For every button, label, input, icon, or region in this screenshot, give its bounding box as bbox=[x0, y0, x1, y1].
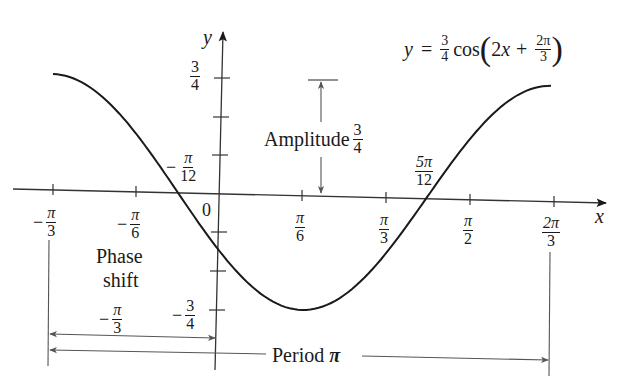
equation: y = 34 cos ( 2x + 2π3 ) bbox=[404, 32, 563, 66]
x-tick-label: π3 bbox=[379, 212, 389, 247]
y-tick-label-top: 34 bbox=[190, 59, 200, 94]
period-label: Period π bbox=[272, 345, 340, 365]
zero-crossing-right-label: 5π12 bbox=[415, 154, 433, 189]
phase-shift-label-line2: shift bbox=[103, 270, 139, 290]
y-axis bbox=[215, 32, 223, 370]
y-axis-label: y bbox=[203, 27, 212, 47]
x-tick-label: π2 bbox=[463, 213, 473, 248]
phase-shift-label-line1: Phase bbox=[96, 246, 143, 266]
x-axis-label: x bbox=[595, 206, 604, 226]
y-tick-label-bottom: −34 bbox=[172, 298, 195, 333]
x-tick-label: −π6 bbox=[117, 207, 140, 242]
x-tick-label: π6 bbox=[295, 210, 305, 245]
origin-label: 0 bbox=[202, 201, 211, 219]
x-axis bbox=[13, 189, 606, 203]
zero-crossing-left-label: −π12 bbox=[166, 150, 197, 185]
amplitude-label: Amplitude 34 bbox=[263, 122, 364, 157]
equation-inner: 2x bbox=[491, 39, 510, 59]
x-tick-label: 2π3 bbox=[542, 215, 560, 250]
phase-shift-value: −π3 bbox=[99, 302, 122, 337]
x-tick-label: −π3 bbox=[33, 205, 56, 240]
